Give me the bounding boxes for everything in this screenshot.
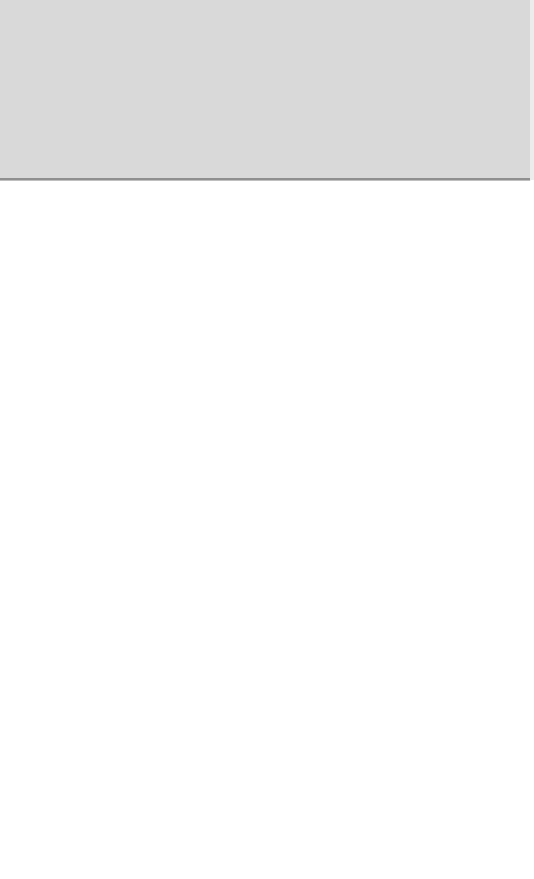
page	[0, 0, 534, 879]
scrollbar-track[interactable]	[530, 0, 534, 180]
blank-content-area	[0, 181, 534, 879]
header-banner	[0, 0, 530, 180]
